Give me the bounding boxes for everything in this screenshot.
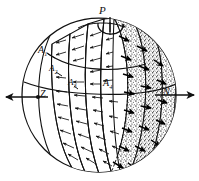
label-band-a4: A4: [103, 78, 112, 88]
sphere-diagram-figure: P Z N A1 A2 A3 A4: [0, 0, 199, 181]
label-band-a1: A1: [38, 45, 47, 55]
label-z-axis: Z: [40, 89, 46, 99]
label-band-a3: A3: [68, 78, 76, 87]
label-pole: P: [99, 5, 106, 16]
label-n-axis: N: [163, 87, 170, 97]
label-band-a2: A2: [49, 64, 57, 73]
